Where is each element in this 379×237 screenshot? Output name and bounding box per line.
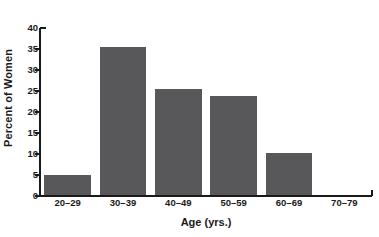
y-axis-tick-label: 25	[16, 86, 38, 96]
x-axis-tick-label: 40–49	[151, 198, 206, 208]
bar-slot	[44, 28, 91, 196]
y-axis-tick-label: 10	[16, 149, 38, 159]
x-axis-tick-label: 30–39	[95, 198, 150, 208]
bar[interactable]	[266, 153, 313, 196]
bar-slot	[210, 28, 257, 196]
bar-slot	[321, 28, 368, 196]
y-axis-tick-label: 40	[16, 23, 38, 33]
y-axis-tick-label: 5	[16, 170, 38, 180]
bar-slot	[155, 28, 202, 196]
plot-area	[40, 14, 372, 196]
bars-layer	[40, 28, 372, 196]
y-axis-tick-label: 0	[16, 191, 38, 201]
histogram-chart: Percent of Women 0510152025303540 20–293…	[0, 0, 379, 237]
bar[interactable]	[210, 96, 257, 196]
bar[interactable]	[100, 47, 147, 196]
x-axis-title: Age (yrs.)	[40, 216, 372, 228]
bar-slot	[266, 28, 313, 196]
bar-slot	[100, 28, 147, 196]
bar[interactable]	[155, 89, 202, 196]
y-axis-tick-label: 20	[16, 107, 38, 117]
x-axis-tick-labels: 20–2930–3940–4950–5960–6970–79	[40, 198, 372, 214]
y-axis-tick-label: 35	[16, 44, 38, 54]
bar[interactable]	[44, 175, 91, 196]
y-axis-title-label: Percent of Women	[2, 49, 14, 147]
y-axis-tick-label: 30	[16, 65, 38, 75]
x-axis-tick-label: 20–29	[40, 198, 95, 208]
y-axis-tick-labels: 0510152025303540	[14, 0, 38, 196]
x-axis-tick-label: 50–59	[206, 198, 261, 208]
x-axis-tick-label: 70–79	[317, 198, 372, 208]
x-axis-tick-label: 60–69	[261, 198, 316, 208]
y-axis-tick-label: 15	[16, 128, 38, 138]
